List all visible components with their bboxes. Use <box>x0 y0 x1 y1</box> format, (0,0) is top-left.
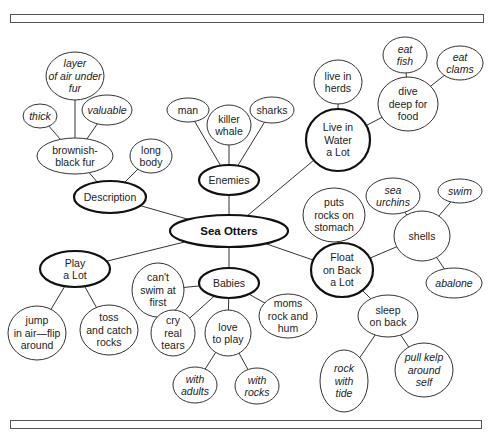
nodes-layer: Sea OttersDescriptionEnemiesLive inWater… <box>8 37 483 412</box>
node-label-enemies: Enemies <box>209 174 250 186</box>
node-label-play-a-lot-line-2: a Lot <box>63 269 86 281</box>
node-label-cry-real-tears-line-1: cry <box>166 314 181 326</box>
node-enemies: Enemies <box>199 165 259 195</box>
node-toss-and-catch: tossand catchrocks <box>80 305 138 355</box>
node-label-cant-swim-line-2: swim at <box>140 284 176 296</box>
node-with-rocks: withrocks <box>235 368 279 404</box>
node-label-eat-clams-line-1: eat <box>453 51 469 63</box>
node-dive-deep: divedeep forfood <box>378 77 438 131</box>
node-label-float-on-back-line-1: Float <box>330 251 353 263</box>
node-love-to-play: loveto play <box>205 310 251 356</box>
node-play-a-lot: Playa Lot <box>40 251 110 287</box>
node-label-eat-fish-line-2: fish <box>397 55 414 67</box>
node-label-jump-in-air-line-1: jump <box>25 314 49 326</box>
node-live-in-water: Live inWatera Lot <box>306 109 370 171</box>
node-label-killer-whale-line-1: killer <box>218 113 240 125</box>
node-description: Description <box>74 181 146 213</box>
node-label-cant-swim-line-1: can't <box>147 271 169 283</box>
node-babies: Babies <box>199 268 259 298</box>
node-label-cant-swim-line-3: first <box>150 296 167 308</box>
node-label-layer-of-air-line-1: layer <box>64 57 87 69</box>
node-label-eat-clams-line-2: clams <box>446 63 474 75</box>
node-eat-clams: eatclams <box>437 46 483 80</box>
node-label-moms-rock-line-2: rock and <box>268 310 308 322</box>
node-label-float-on-back-line-2: on Back <box>323 264 362 276</box>
node-label-love-to-play-line-1: love <box>218 321 237 333</box>
node-label-love-to-play-line-2: to play <box>213 333 245 345</box>
node-label-long-body-line-2: body <box>140 156 164 168</box>
node-sharks: sharks <box>250 97 294 123</box>
node-label-killer-whale-line-2: whale <box>214 125 243 137</box>
node-label-with-rocks-line-2: rocks <box>244 386 270 398</box>
node-label-puts-rocks-line-2: rocks on <box>314 209 354 221</box>
node-label-sleep-on-back-line-1: sleep <box>375 304 400 316</box>
node-label-pull-kelp-line-3: self <box>416 376 433 388</box>
node-label-live-in-herds-line-2: herds <box>325 82 351 94</box>
node-brownish-black-fur: brownish-black fur <box>37 138 113 174</box>
node-label-sea-otters: Sea Otters <box>200 225 258 237</box>
node-cant-swim: can'tswim atfirst <box>132 263 184 317</box>
node-label-jump-in-air-line-3: around <box>21 339 54 351</box>
node-label-thick: thick <box>29 110 51 122</box>
node-label-sea-urchins-line-1: sea <box>385 184 402 196</box>
node-live-in-herds: live inherds <box>314 60 362 104</box>
node-label-rock-with-tide-line-2: with <box>335 375 354 387</box>
node-label-dive-deep-line-2: deep for <box>389 98 428 110</box>
node-label-jump-in-air-line-2: in air—flip <box>14 327 61 339</box>
node-label-brownish-black-fur-line-2: black fur <box>55 156 95 168</box>
node-long-body: longbody <box>130 139 172 173</box>
node-puts-rocks: putsrocks onstomach <box>303 188 365 242</box>
concept-map: Sea OttersDescriptionEnemiesLive inWater… <box>0 0 502 434</box>
node-label-moms-rock-line-3: hum <box>278 322 299 334</box>
node-label-play-a-lot-line-1: Play <box>65 257 86 269</box>
node-shells: shells <box>394 211 450 261</box>
node-sea-urchins: seaurchins <box>366 178 420 214</box>
node-label-moms-rock-line-1: moms <box>274 297 303 309</box>
node-label-sea-urchins-line-2: urchins <box>376 196 411 208</box>
node-label-rock-with-tide-line-1: rock <box>334 362 355 374</box>
node-label-brownish-black-fur-line-1: brownish- <box>52 144 98 156</box>
node-cry-real-tears: cryrealtears <box>151 310 195 356</box>
node-label-toss-and-catch-line-2: and catch <box>86 324 132 336</box>
node-layer-of-air: layerof air underfur <box>46 52 104 100</box>
node-label-layer-of-air-line-2: of air under <box>48 70 102 82</box>
node-label-babies: Babies <box>213 277 245 289</box>
node-label-layer-of-air-line-3: fur <box>69 82 82 94</box>
node-label-shells: shells <box>409 230 436 242</box>
node-label-man: man <box>178 104 199 116</box>
node-jump-in-air: jumpin air—fliparound <box>8 306 66 360</box>
node-label-pull-kelp-line-2: around <box>408 364 442 376</box>
node-label-abalone: abalone <box>435 277 473 289</box>
node-label-live-in-water-line-2: Water <box>324 134 352 146</box>
node-thick: thick <box>23 104 57 128</box>
node-label-puts-rocks-line-3: stomach <box>314 221 354 233</box>
node-label-puts-rocks-line-1: puts <box>324 196 344 208</box>
node-label-cry-real-tears-line-3: tears <box>161 339 184 351</box>
node-sleep-on-back: sleepon back <box>358 295 418 337</box>
node-label-live-in-water-line-1: Live in <box>323 121 354 133</box>
node-label-sleep-on-back-line-2: on back <box>370 316 408 328</box>
node-label-with-adults-line-2: adults <box>181 385 210 397</box>
node-pull-kelp: pull kelparoundself <box>395 343 453 397</box>
node-label-live-in-water-line-3: a Lot <box>326 146 349 158</box>
node-killer-whale: killerwhale <box>207 105 251 145</box>
node-label-pull-kelp-line-1: pull kelp <box>404 351 444 363</box>
node-label-live-in-herds-line-1: live in <box>325 70 352 82</box>
node-label-description: Description <box>84 191 137 203</box>
node-label-long-body-line-1: long <box>141 144 161 156</box>
node-valuable: valuable <box>82 95 132 125</box>
node-sea-otters: Sea Otters <box>170 215 288 247</box>
node-label-swim: swim <box>448 185 472 197</box>
node-label-rock-with-tide-line-3: tide <box>336 387 353 399</box>
node-label-dive-deep-line-3: food <box>398 110 419 122</box>
node-label-sharks: sharks <box>257 104 288 116</box>
node-man: man <box>167 98 209 122</box>
node-rock-with-tide: rockwithtide <box>320 350 368 412</box>
node-abalone: abalone <box>426 268 482 298</box>
node-label-eat-fish-line-1: eat <box>398 43 414 55</box>
node-with-adults: withadults <box>173 367 217 403</box>
node-label-valuable: valuable <box>87 104 126 116</box>
node-label-dive-deep-line-1: dive <box>398 85 417 97</box>
node-eat-fish: eatfish <box>383 37 427 73</box>
node-label-cry-real-tears-line-2: real <box>164 327 182 339</box>
